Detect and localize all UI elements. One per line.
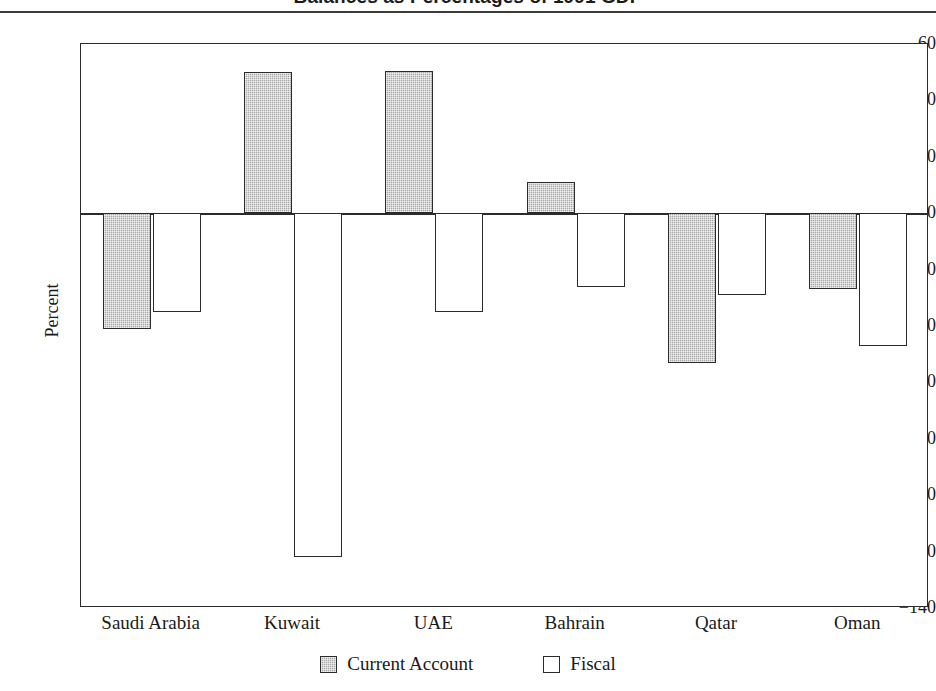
- x-tick-label-uae: UAE: [363, 612, 504, 634]
- legend-item-fiscal[interactable]: Fiscal: [543, 653, 615, 675]
- x-tick-label-kuwait: Kuwait: [221, 612, 362, 634]
- bar-oman-current-account: [809, 213, 857, 289]
- chart-legend: Current Account Fiscal: [0, 653, 936, 675]
- bar-qatar-current-account: [668, 213, 716, 362]
- bar-saudi-arabia-fiscal: [153, 213, 201, 312]
- y-axis-label: Percent: [42, 251, 63, 371]
- x-tick-label-oman: Oman: [787, 612, 928, 634]
- x-tick-label-saudi-arabia: Saudi Arabia: [80, 612, 221, 634]
- chart-title-bar: Balances as Percentages of 1991 GDP: [0, 0, 936, 11]
- bar-saudi-arabia-current-account: [103, 213, 151, 329]
- page-title: Balances as Percentages of 1991 GDP: [0, 0, 936, 8]
- x-tick-label-bahrain: Bahrain: [504, 612, 645, 634]
- legend-item-current-account[interactable]: Current Account: [320, 653, 473, 675]
- legend-label-fiscal: Fiscal: [570, 653, 615, 675]
- bar-uae-current-account: [385, 71, 433, 213]
- plot-area: [80, 43, 928, 607]
- legend-swatch-current-account-icon: [320, 656, 337, 673]
- x-tick-label-qatar: Qatar: [645, 612, 786, 634]
- zero-baseline: [81, 213, 929, 215]
- bar-kuwait-current-account: [244, 72, 292, 213]
- legend-swatch-fiscal-icon: [543, 656, 560, 673]
- bar-bahrain-current-account: [527, 182, 575, 213]
- legend-label-current-account: Current Account: [347, 653, 473, 675]
- bar-uae-fiscal: [435, 213, 483, 312]
- title-divider: [0, 11, 936, 13]
- bar-qatar-fiscal: [718, 213, 766, 295]
- bar-kuwait-fiscal: [294, 213, 342, 557]
- bar-bahrain-fiscal: [577, 213, 625, 286]
- bar-oman-fiscal: [859, 213, 907, 346]
